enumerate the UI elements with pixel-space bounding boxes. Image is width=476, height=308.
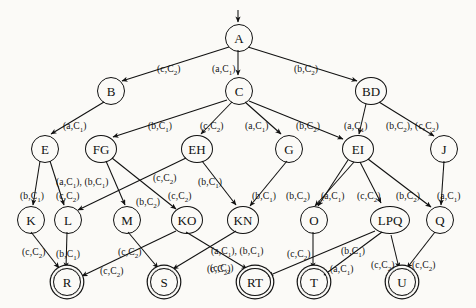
state-node-fg[interactable]: FG (85, 135, 117, 163)
state-node-q[interactable]: Q (426, 206, 454, 234)
state-node-kn[interactable]: KN (227, 206, 259, 234)
state-node-rt[interactable]: RT (239, 268, 271, 296)
state-node-j[interactable]: J (430, 135, 458, 163)
edge-label-ei-o2: (a,C1) (321, 190, 345, 204)
edge-label-ei-lpq: (c,C2) (357, 190, 381, 204)
edge-label-c-eh: (c,C2) (200, 120, 224, 134)
state-node-o[interactable]: O (300, 206, 328, 234)
edge-label-lpq-t: (b,C1) (341, 245, 365, 259)
state-node-a[interactable]: A (225, 24, 253, 52)
edge-label-a-c: (a,C1) (212, 63, 236, 77)
edge-label-kn-s: (a,C1), (b,C1) (211, 245, 264, 259)
state-node-k[interactable]: K (17, 206, 45, 234)
edge-label-b-e: (a,C1) (63, 120, 87, 134)
edge-label-k-r: (c,C2) (22, 246, 46, 260)
edge-label-lpq-u: (c,C2) (371, 259, 395, 273)
state-node-e[interactable]: E (31, 135, 59, 163)
edge-label-ko-r: (c,C2) (100, 265, 124, 279)
edge-label-g-kn: (b,C1) (252, 190, 276, 204)
state-node-ko[interactable]: KO (171, 206, 203, 234)
edge-label-ko-rt: (c,C2) (210, 262, 234, 276)
edge-label-q-u: (c,C2) (412, 259, 436, 273)
edge-label-c-g: (a,C1) (245, 120, 269, 134)
edge-label-j-q: (a,C1) (437, 190, 461, 204)
edge-label-m-s: (c,C2) (118, 246, 142, 260)
edge-label-c-fg: (b,C1) (148, 120, 172, 134)
edge-label-c-ei: (b,C2) (296, 120, 320, 134)
edge-label-e-l2: (c,C2) (56, 190, 80, 204)
edge-label-lpq-t2: (a,C1) (330, 263, 354, 277)
edge-label-o-t: (c,C2) (287, 248, 311, 262)
state-node-bd[interactable]: BD (355, 77, 387, 105)
state-node-lpq[interactable]: LPQ (370, 206, 410, 234)
edge-label-l-r: (b,C1) (56, 248, 80, 262)
edge-label-eh-l: (c,C2) (153, 172, 177, 186)
state-node-ei[interactable]: EI (342, 135, 374, 163)
edge-label-fg-ko: (c,C2) (168, 190, 192, 204)
state-node-eh[interactable]: EH (181, 135, 213, 163)
edge-label-e-k: (b,C1) (20, 190, 44, 204)
edge-label-fg-m: (b,C2) (136, 196, 160, 210)
edge-label-a-bd: (b,C2) (294, 63, 318, 77)
edge-label-ei-q: (b,C2) (396, 190, 420, 204)
edge-label-ei-o: (b,C2) (286, 190, 310, 204)
automaton-diagram: ABCBDEFGEHGEIJKLMKOKNOLPQQRSRTTU (c,C2)(… (0, 0, 476, 308)
state-node-t[interactable]: T (300, 268, 328, 296)
state-node-b[interactable]: B (97, 77, 125, 105)
edge-label-bd-ei: (a,C1) (344, 120, 368, 134)
edge-label-eh-kn: (b,C1) (198, 176, 222, 190)
edge-label-a-b: (c,C2) (157, 63, 181, 77)
state-node-r[interactable]: R (53, 268, 81, 296)
state-node-s[interactable]: S (150, 268, 178, 296)
state-node-m[interactable]: M (113, 206, 141, 234)
state-node-c[interactable]: C (225, 77, 253, 105)
state-node-g[interactable]: G (275, 135, 303, 163)
state-node-l[interactable]: L (54, 206, 82, 234)
edge-label-e-l: (a,C1), (b,C1) (56, 176, 109, 190)
edge-label-bd-j: (b,C2), (c,C2) (386, 120, 439, 134)
